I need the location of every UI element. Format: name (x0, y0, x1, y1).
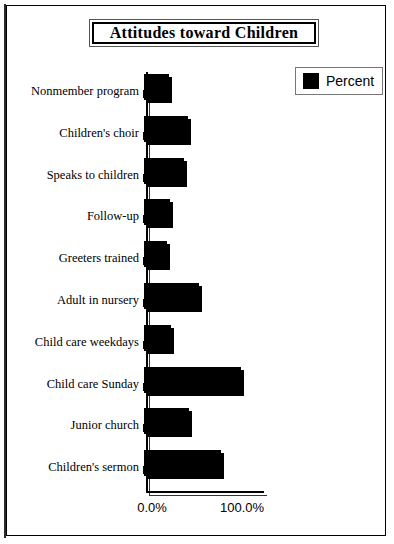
plot-area: Nonmember programChildren's choirSpeaks … (7, 6, 387, 537)
bar-junior-church[interactable] (144, 408, 189, 434)
bar-row: Nonmember program (7, 72, 387, 113)
bar-row: Junior church (7, 406, 387, 447)
bar-row: Adult in nursery (7, 281, 387, 322)
bar-child-care-weekdays[interactable] (144, 325, 171, 351)
bar-row: Children's sermon (7, 448, 387, 489)
bar-row: Greeters trained (7, 239, 387, 280)
x-tick-label: 100.0% (220, 500, 264, 515)
category-label: Junior church (71, 418, 139, 433)
bar-row: Follow-up (7, 197, 387, 238)
bar-row: Child care Sunday (7, 365, 387, 406)
bar-row: Child care weekdays (7, 323, 387, 364)
y-axis-line (146, 72, 148, 493)
bar-speaks-to-children[interactable] (144, 158, 184, 184)
category-label: Speaks to children (47, 168, 139, 183)
chart-frame: Attitudes toward Children Percent Nonmem… (6, 5, 386, 536)
bar-children-s-choir[interactable] (144, 116, 188, 142)
category-label: Child care weekdays (35, 335, 139, 350)
category-label: Nonmember program (31, 84, 139, 99)
category-label: Follow-up (87, 209, 139, 224)
bar-adult-in-nursery[interactable] (144, 283, 199, 309)
x-tick-label: 0.0% (137, 500, 167, 515)
bar-child-care-sunday[interactable] (144, 367, 241, 393)
x-axis-shadow (149, 495, 267, 496)
category-label: Children's sermon (48, 460, 139, 475)
category-label: Children's choir (59, 126, 139, 141)
category-label: Child care Sunday (47, 377, 139, 392)
bar-children-s-sermon[interactable] (144, 450, 221, 476)
category-label: Greeters trained (59, 251, 139, 266)
bar-row: Speaks to children (7, 156, 387, 197)
category-label: Adult in nursery (57, 293, 139, 308)
x-axis-line (146, 491, 264, 493)
bar-row: Children's choir (7, 114, 387, 155)
